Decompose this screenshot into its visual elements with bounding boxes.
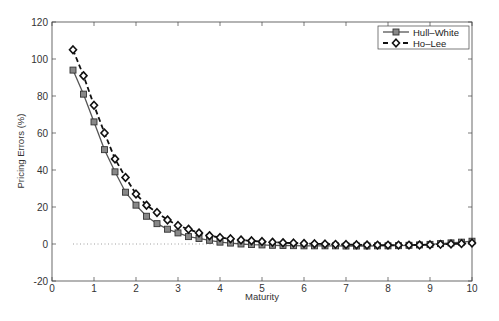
legend-label: Ho–Lee [413, 38, 446, 49]
y-tick-label: 40 [37, 165, 49, 176]
square-marker [154, 221, 160, 227]
square-marker [70, 67, 76, 73]
square-marker [186, 234, 192, 240]
square-marker [133, 202, 139, 208]
y-tick-label: 20 [37, 202, 49, 213]
x-tick-label: 0 [49, 283, 55, 294]
x-tick-label: 2 [133, 283, 139, 294]
y-axis-label: Pricing Errors (%) [15, 114, 26, 189]
x-tick-label: 8 [385, 283, 391, 294]
y-tick-label: 80 [37, 91, 49, 102]
y-tick-label: 120 [31, 17, 48, 28]
x-tick-label: 9 [427, 283, 433, 294]
y-tick-label: 100 [31, 54, 48, 65]
square-marker [165, 226, 171, 232]
x-tick-label: 1 [91, 283, 97, 294]
y-tick-label: 0 [42, 239, 48, 250]
y-tick-label: 60 [37, 128, 49, 139]
legend-label: Hull–White [413, 27, 459, 38]
y-tick-label: -20 [34, 276, 49, 287]
x-tick-label: 3 [175, 283, 181, 294]
square-marker [112, 169, 118, 175]
x-axis-label: Maturity [245, 291, 279, 302]
x-tick-label: 7 [343, 283, 349, 294]
square-marker [81, 91, 87, 97]
x-tick-label: 6 [301, 283, 307, 294]
square-marker [393, 29, 399, 35]
square-marker [175, 230, 181, 236]
square-marker [91, 119, 97, 125]
square-marker [123, 189, 129, 195]
x-tick-label: 4 [217, 283, 223, 294]
square-marker [144, 213, 150, 219]
x-tick-label: 10 [466, 283, 478, 294]
pricing-errors-chart: 012345678910 -20020406080100120 Maturity… [0, 0, 499, 321]
square-marker [102, 147, 108, 153]
legend: Hull–WhiteHo–Lee [378, 26, 469, 49]
